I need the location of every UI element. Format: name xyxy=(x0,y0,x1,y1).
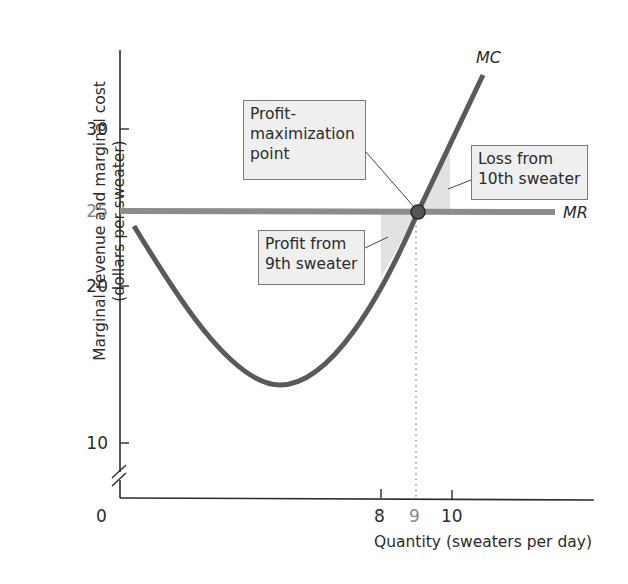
mr-line xyxy=(120,211,555,212)
profit-9th-line2: 9th sweater xyxy=(265,254,358,274)
loss-10th-line1: Loss from xyxy=(478,149,581,169)
y-tick-label-20: 20 xyxy=(68,276,108,296)
x-tick-label-0: 0 xyxy=(96,506,107,526)
x-tick-label-8: 8 xyxy=(374,506,385,526)
profit-max-line3: point xyxy=(250,144,359,164)
profit-max-line2: maximization xyxy=(250,124,359,144)
profit-9th-annotation: Profit from 9th sweater xyxy=(258,230,365,285)
y-axis-label-line2: (dollars per sweater) xyxy=(110,11,129,431)
y-tick-label-30: 30 xyxy=(68,119,108,139)
x-tick-label-10: 10 xyxy=(441,506,463,526)
x-tick-label-9: 9 xyxy=(409,506,420,526)
leader-loss-10th xyxy=(448,180,471,189)
profit-max-line1: Profit- xyxy=(250,104,359,124)
x-axis xyxy=(120,498,594,500)
profit-max-point xyxy=(411,205,425,219)
profit-max-annotation: Profit- maximization point xyxy=(243,100,366,180)
y-axis-label-line1: Marginal revenue and marginal cost xyxy=(91,11,110,431)
chart-container: Marginal revenue and marginal cost (doll… xyxy=(0,0,628,584)
loss-10th-line2: 10th sweater xyxy=(478,169,581,189)
y-tick-label-10: 10 xyxy=(68,433,108,453)
mr-label: MR xyxy=(563,203,588,223)
x-axis-label: Quantity (sweaters per day) xyxy=(374,532,592,552)
loss-10th-annotation: Loss from 10th sweater xyxy=(471,145,588,200)
mc-label: MC xyxy=(476,48,501,68)
leader-profit-max xyxy=(366,152,414,207)
y-tick-label-25: 25 xyxy=(68,201,108,221)
profit-9th-line1: Profit from xyxy=(265,234,358,254)
y-axis-label: Marginal revenue and marginal cost (doll… xyxy=(91,11,129,431)
